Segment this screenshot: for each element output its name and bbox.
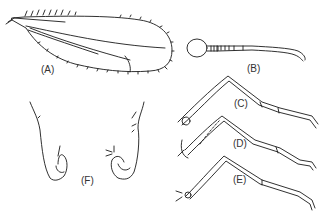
panel-label-d: (D) xyxy=(233,138,247,149)
wing-drawing xyxy=(6,10,174,74)
figure-canvas: (A) (B) (C) (D) (E) (F) xyxy=(0,0,328,218)
antenna-drawing xyxy=(187,39,305,61)
panel-label-a: (A) xyxy=(41,64,54,75)
leg-d-drawing xyxy=(178,116,316,170)
panel-label-c: (C) xyxy=(234,98,248,109)
genitalia-drawing xyxy=(30,102,144,180)
leg-c-drawing xyxy=(178,76,318,128)
panel-label-f: (F) xyxy=(81,175,94,186)
panel-label-b: (B) xyxy=(247,63,260,74)
panel-label-e: (E) xyxy=(233,174,246,185)
